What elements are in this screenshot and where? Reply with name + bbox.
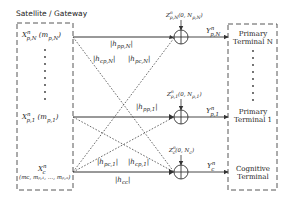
- gain-hpc-N: |hpc,N|: [128, 56, 150, 65]
- close: ): [192, 147, 194, 153]
- gain-bar: |: [130, 40, 132, 48]
- output-y-p-1: Ynp,1: [206, 106, 219, 117]
- message: (m: [38, 113, 47, 121]
- terminal-line-2: Terminal: [229, 173, 277, 181]
- gain-bar: |: [113, 55, 115, 63]
- signal-x-p-N: Xnp,N (mp,N): [22, 30, 61, 41]
- message-sub: p,N: [48, 35, 58, 41]
- signal-x-c-messages: (mᴄ, mₚ,₁, …, mₚ,ₙ): [19, 175, 70, 181]
- terminal-line-2: Terminal 1: [229, 116, 277, 124]
- adder-1: [174, 110, 188, 124]
- gain-prefix: |h: [115, 176, 122, 184]
- gain-sub: cp,N: [100, 58, 113, 64]
- gain-bar: |: [155, 103, 157, 111]
- gain-bar: |: [128, 176, 130, 184]
- gain-sub: pc,1: [104, 161, 116, 167]
- link-c-to-N: [73, 38, 174, 172]
- terminal-ellipsis: [252, 50, 254, 101]
- gain-sub: cp,1: [135, 161, 147, 167]
- sub: p,1: [27, 117, 36, 123]
- close: ): [201, 12, 203, 18]
- sub: p,N: [170, 15, 178, 20]
- args: (0, N: [175, 147, 189, 153]
- message-close: ): [56, 113, 59, 121]
- gain-prefix: |h: [97, 158, 104, 166]
- gain-hcp-N: |hcp,N|: [93, 56, 115, 65]
- terminal-line-1: Primary: [229, 108, 277, 116]
- terminal-line-2: Terminal N: [229, 38, 277, 46]
- terminal-line-1: Primary: [229, 30, 277, 38]
- terminal-primary-N: Primary Terminal N: [229, 30, 277, 46]
- args: (0, N: [178, 12, 192, 18]
- gain-bar: |: [116, 158, 118, 166]
- sub: p,N: [210, 31, 220, 37]
- gain-hcp-1: |hcp,1|: [128, 159, 149, 168]
- gain-hcc: |hcc|: [115, 177, 130, 186]
- gain-prefix: |h: [110, 40, 117, 48]
- sub: p,N: [27, 35, 37, 41]
- gain-bar: |: [148, 55, 150, 63]
- noise-z-c: Znc(0, Nc): [169, 146, 194, 156]
- args-sub: p,N: [192, 15, 200, 20]
- close: ): [199, 91, 201, 97]
- terminal-line-1: Cognitive: [229, 165, 277, 173]
- terminal-cognitive: Cognitive Terminal: [229, 165, 277, 181]
- args: (0, N: [178, 91, 192, 97]
- terminal-primary-1: Primary Terminal 1: [229, 108, 277, 124]
- adder-N: [174, 30, 188, 44]
- noise-z-p-N: Znp,N(0, Np,N): [166, 11, 203, 21]
- signal-x-p-1: Xnp,1 (mp,1): [22, 112, 58, 123]
- output-y-c: Ync: [207, 161, 214, 172]
- gain-hpp-1: |hpp,1|: [136, 104, 158, 113]
- source-box-title: Satellite / Gateway: [16, 10, 87, 18]
- sub: p,1: [171, 94, 178, 99]
- gain-prefix: |h: [128, 158, 135, 166]
- output-y-p-N: Ynp,N: [206, 26, 220, 37]
- gain-hpc-1: |hpc,1|: [97, 159, 118, 168]
- gain-prefix: |h: [128, 55, 135, 63]
- gain-sub: pp,N: [117, 43, 131, 49]
- arrow-into-adder-1: [169, 114, 174, 120]
- gain-prefix: |h: [93, 55, 100, 63]
- message: (m: [39, 31, 48, 39]
- gain-sub: pp,1: [143, 106, 155, 112]
- adder-c: [174, 165, 188, 179]
- gain-bar: |: [147, 158, 149, 166]
- message-sub: p,1: [47, 117, 56, 123]
- noise-z-p-1: Znp,1(0, Np,1): [167, 90, 202, 100]
- gain-prefix: |h: [136, 103, 143, 111]
- sub: p,1: [210, 111, 219, 117]
- source-ellipsis: [44, 49, 46, 100]
- gain-sub: pc,N: [135, 58, 148, 64]
- arrow-into-adder-c: [169, 169, 174, 175]
- gain-hpp-N: |hpp,N|: [110, 41, 133, 50]
- message-close: ): [58, 31, 61, 39]
- sub: c: [211, 166, 214, 172]
